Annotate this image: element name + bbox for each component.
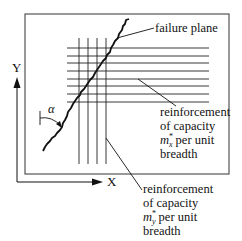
- alpha-label: α: [48, 102, 55, 116]
- reinforcement-x-line-4: breadth: [160, 147, 198, 161]
- vertical-reinforcement-bars: [79, 38, 106, 164]
- y-axis-arrow-icon: [14, 77, 21, 88]
- reinforcement-y-line-1: reinforcement: [143, 182, 214, 196]
- reinforcement-diagram: failure plane reinforcement of capacity …: [0, 0, 242, 241]
- my-symbol: m: [143, 210, 152, 224]
- reinforcement-x-label: reinforcement of capacity: [160, 105, 233, 133]
- reinforcement-y-line-4: breadth: [143, 224, 181, 238]
- reinforcement-x-line-2: of capacity: [160, 119, 216, 133]
- x-axis-arrow-icon: [92, 179, 103, 186]
- y-axis-label: Y: [12, 60, 22, 75]
- x-axis-label: X: [107, 174, 117, 189]
- reinforcement-y-label: reinforcement of capacity: [143, 182, 216, 210]
- reinforcement-x-line-1: reinforcement: [160, 105, 231, 119]
- failure-plane-label: failure plane: [155, 21, 218, 35]
- reinforcement-y-line-2: of capacity: [143, 196, 199, 210]
- failure-plane-line: [43, 19, 129, 151]
- mx-symbol: m: [160, 133, 169, 147]
